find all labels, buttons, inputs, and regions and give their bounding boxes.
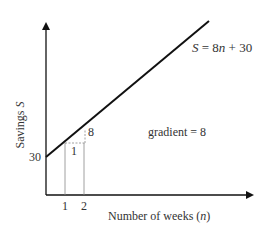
y-tick-30: 30 bbox=[29, 150, 41, 164]
y-axis-label: Savings S bbox=[13, 101, 27, 148]
equation-label: S = 8n + 30 bbox=[192, 40, 252, 55]
gradient-label: gradient = 8 bbox=[148, 125, 206, 139]
x-tick-1: 1 bbox=[62, 199, 68, 213]
x-axis-label: Number of weeks (n) bbox=[108, 209, 210, 223]
x-tick-2: 2 bbox=[81, 199, 87, 213]
rise-label: 8 bbox=[88, 125, 94, 139]
savings-line-chart: S = 8n + 30 gradient = 8 8 1 30 1 2 Numb… bbox=[0, 0, 265, 233]
run-label: 1 bbox=[71, 144, 77, 158]
